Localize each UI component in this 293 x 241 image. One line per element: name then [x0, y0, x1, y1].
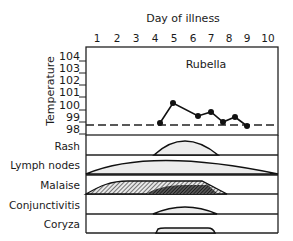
- data-point: [208, 109, 214, 115]
- x-tick: 8: [226, 32, 233, 44]
- symptom-label-coryza: Coryza: [44, 218, 80, 230]
- data-point: [220, 119, 226, 125]
- y-tick-marks: [79, 61, 86, 134]
- x-axis-title: Day of illness: [146, 12, 220, 25]
- data-point: [244, 123, 250, 129]
- y-tick: 101: [59, 86, 80, 99]
- lymph-nodes-duration-shape: [86, 161, 278, 175]
- x-tick: 9: [244, 32, 251, 44]
- rash-duration-shape: [154, 141, 218, 155]
- symptom-labels: Rash Lymph nodes Malaise Conjunctivitis …: [9, 140, 80, 230]
- data-point: [195, 113, 201, 119]
- coryza-duration-shape: [156, 228, 215, 233]
- x-tick: 7: [208, 32, 215, 44]
- data-point: [157, 120, 163, 126]
- y-tick-labels: 104 103 102 101 100 99 98: [59, 50, 80, 136]
- x-tick-labels: 1 2 3 4 5 6 7 8 9 10: [94, 32, 275, 44]
- x-tick: 10: [261, 32, 274, 44]
- x-tick: 2: [114, 32, 121, 44]
- data-point: [170, 100, 176, 106]
- symptom-label-rash: Rash: [54, 140, 80, 152]
- symptom-label-malaise: Malaise: [40, 179, 80, 191]
- symptom-label-lymph-nodes: Lymph nodes: [10, 159, 80, 171]
- x-tick: 1: [94, 32, 101, 44]
- symptom-label-conjunctivitis: Conjunctivitis: [9, 199, 80, 211]
- conjunctivitis-duration-shape: [153, 207, 217, 214]
- rubella-chart: Day of illness 1 2 3 4 5 6 7 8 9 10 Temp…: [0, 0, 293, 241]
- data-point: [232, 114, 238, 120]
- chart-title: Rubella: [186, 58, 227, 71]
- x-tick: 6: [190, 32, 197, 44]
- y-tick: 98: [66, 123, 80, 136]
- x-tick: 3: [133, 32, 140, 44]
- temperature-plot-frame: [86, 47, 278, 135]
- x-tick: 4: [152, 32, 159, 44]
- x-tick: 5: [171, 32, 178, 44]
- y-axis-title: Temperature: [44, 56, 57, 127]
